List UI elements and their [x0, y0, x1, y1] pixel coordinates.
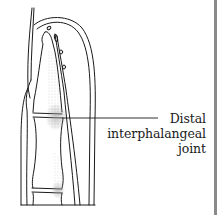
anatomy-figure: Distal interphalangeal joint [0, 0, 218, 215]
finger-drawing [0, 0, 218, 215]
bone-shading [45, 50, 67, 200]
joint-label: Distal interphalangeal joint [107, 111, 206, 156]
page-border [214, 0, 217, 215]
label-line-2: interphalangeal [107, 126, 206, 141]
label-line-1: Distal [107, 111, 206, 126]
label-line-3: joint [107, 141, 206, 156]
